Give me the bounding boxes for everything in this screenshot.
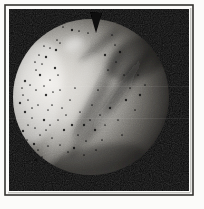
film-grain — [9, 9, 189, 191]
photo-content — [3, 9, 189, 191]
framed-photo — [0, 0, 204, 209]
photo-canvas — [0, 0, 204, 209]
